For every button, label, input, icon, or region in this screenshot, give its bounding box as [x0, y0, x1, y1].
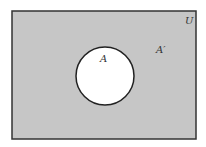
set-a-label: A	[99, 53, 107, 64]
venn-diagram: U A A′	[0, 0, 206, 147]
universe-label: U	[185, 15, 194, 26]
complement-label: A′	[155, 44, 166, 55]
